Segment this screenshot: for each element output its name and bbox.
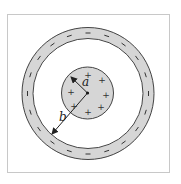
radius-b-label: b [59,110,67,124]
plus-sign: + [67,87,75,97]
plus-sign: + [97,102,105,112]
diagram-canvas: +++++++ a b [0,0,181,184]
plus-sign: + [102,90,110,100]
diagram-figure: +++++++ a b [0,0,181,184]
plus-sign: + [84,107,92,117]
radius-a-label: a [82,75,89,89]
plus-sign: + [98,75,106,85]
